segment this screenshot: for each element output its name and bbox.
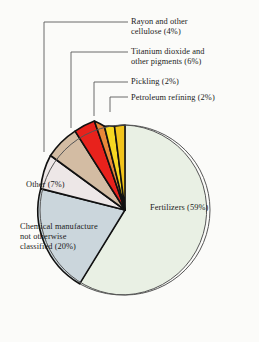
pie-chart-figure: Rayon and other cellulose (4%) Titanium …	[0, 0, 259, 342]
pie-label-rayon-cellulose: Rayon and other cellulose (4%)	[131, 17, 255, 37]
pie-label-other: Other (7%)	[26, 180, 96, 190]
pie-label-fertilizers: Fertilizers (59%)	[150, 203, 236, 213]
pie-label-pickling: Pickling (2%)	[131, 77, 255, 87]
leader-line-titanium	[71, 52, 128, 128]
pie-label-petroleum-refining: Petroleum refining (2%)	[131, 93, 257, 103]
leader-line-pickling	[94, 82, 128, 116]
leader-line-petroleum	[110, 97, 128, 112]
pie-label-titanium-dioxide: Titanium dioxide and other pigments (6%)	[131, 47, 255, 67]
pie-label-chemical-manufacture: Chemical manufacture not otherwise class…	[20, 222, 116, 253]
